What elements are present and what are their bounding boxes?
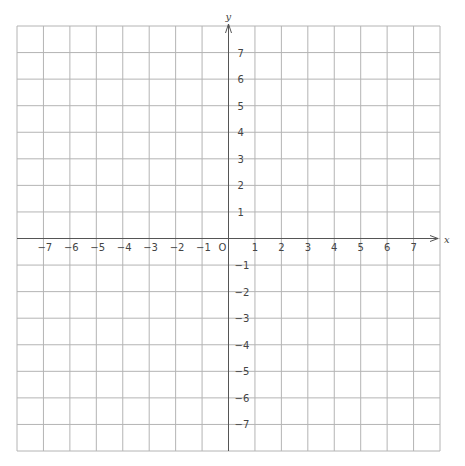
- x-tick-label: 4: [331, 242, 337, 253]
- coordinate-plane: −7−6−5−4−3−2−112345677654321−1−2−3−4−5−6…: [0, 0, 465, 466]
- y-tick-label: 5: [238, 101, 244, 112]
- x-tick-label: −6: [64, 242, 79, 253]
- y-tick-label: 7: [238, 48, 244, 59]
- origin-label: O: [219, 242, 227, 253]
- y-tick-label: 2: [238, 180, 244, 191]
- x-tick-label: 6: [384, 242, 390, 253]
- y-tick-label: −6: [235, 393, 250, 404]
- x-tick-label: 3: [305, 242, 311, 253]
- x-tick-label: −3: [143, 242, 158, 253]
- y-tick-label: −7: [235, 419, 250, 430]
- x-tick-label: −7: [37, 242, 52, 253]
- x-tick-label: 7: [410, 242, 416, 253]
- x-tick-label: 5: [358, 242, 364, 253]
- y-tick-label: 1: [238, 207, 244, 218]
- x-tick-label: 1: [252, 242, 258, 253]
- x-tick-label: −1: [196, 242, 211, 253]
- x-tick-label: −2: [170, 242, 185, 253]
- y-tick-label: −2: [235, 287, 250, 298]
- x-tick-label: −5: [90, 242, 105, 253]
- y-tick-label: −4: [235, 340, 250, 351]
- y-tick-label: 6: [238, 74, 244, 85]
- y-tick-label: −3: [235, 313, 250, 324]
- axes: [17, 24, 438, 451]
- y-tick-label: 3: [238, 154, 244, 165]
- y-tick-label: 4: [238, 127, 244, 138]
- x-tick-label: 2: [278, 242, 284, 253]
- y-axis-label: y: [225, 11, 232, 22]
- y-tick-label: −1: [235, 260, 250, 271]
- x-axis-label: x: [444, 234, 450, 245]
- y-tick-label: −5: [235, 366, 250, 377]
- x-tick-label: −4: [117, 242, 132, 253]
